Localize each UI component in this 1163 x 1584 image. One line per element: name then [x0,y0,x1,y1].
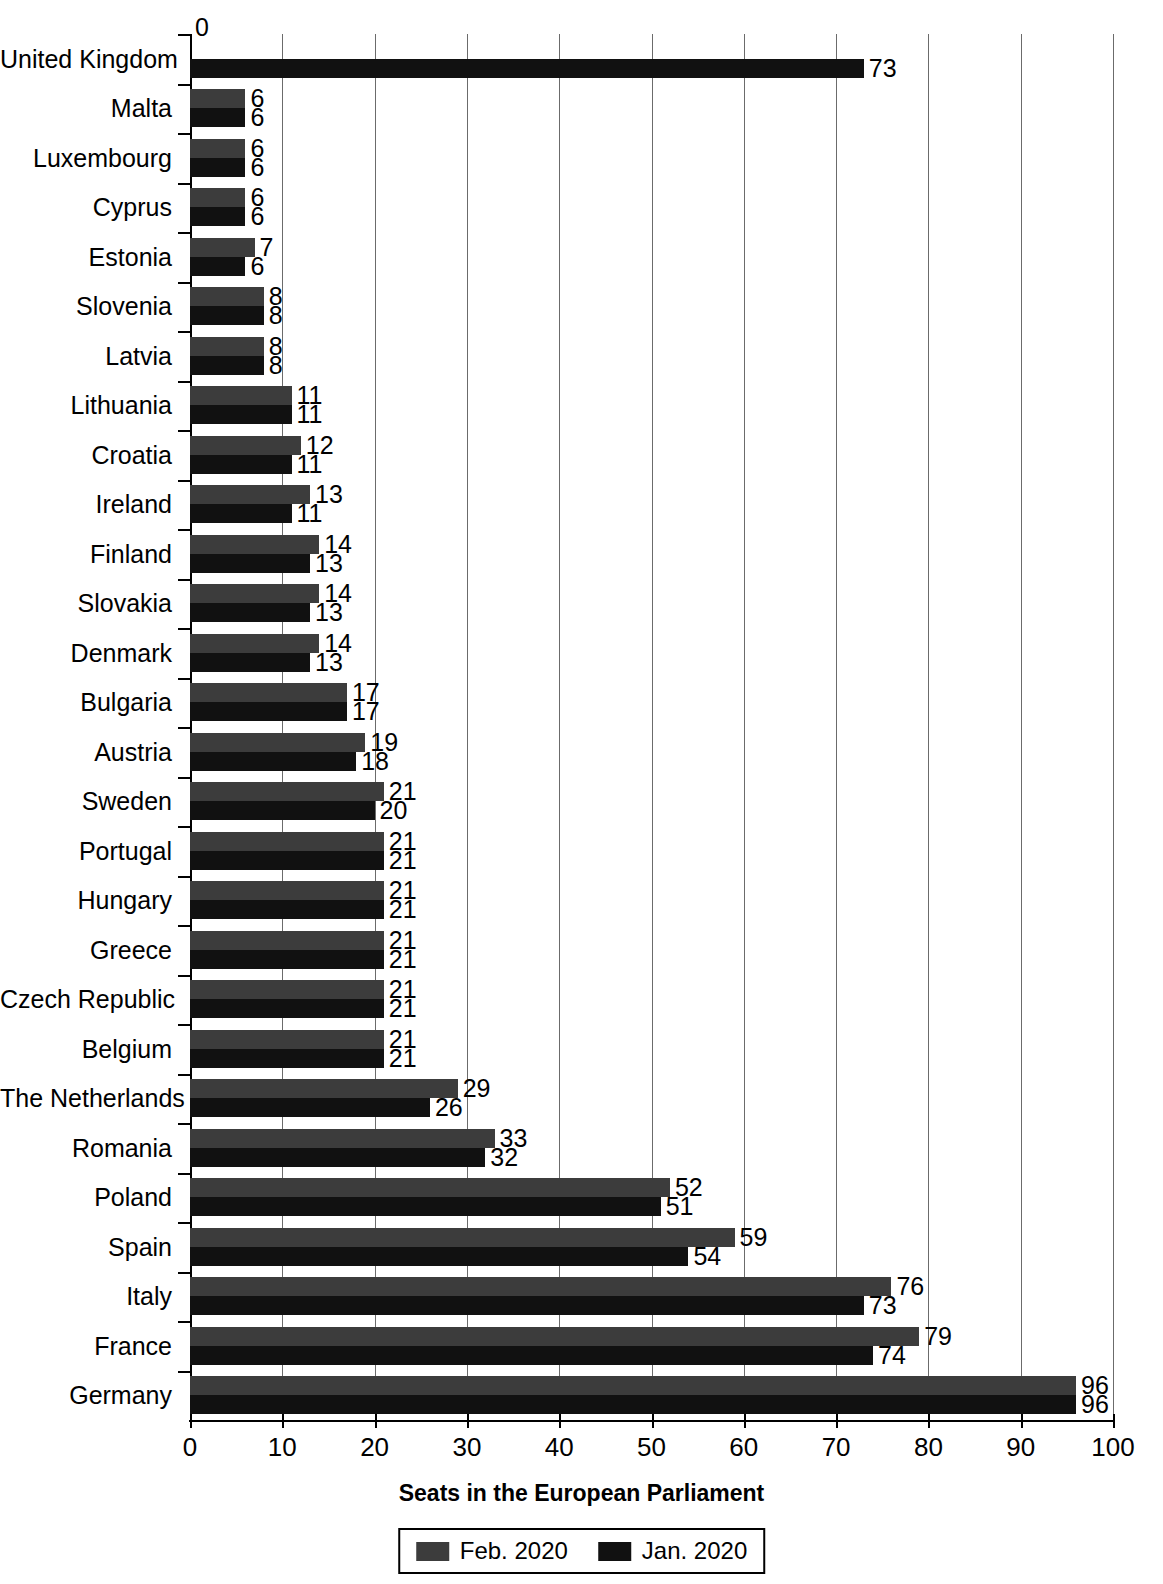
bar-jan [190,851,384,870]
chart-row: Belgium2121 [0,1024,1163,1074]
category-label: Poland [0,1185,172,1210]
category-label: Italy [0,1284,172,1309]
bar-value-jan: 73 [864,59,897,78]
chart-row: Ireland1311 [0,480,1163,530]
category-label: Bulgaria [0,690,172,715]
bar-feb [190,1178,670,1197]
category-label: Slovenia [0,294,172,319]
bar-feb [190,139,245,158]
category-label: Austria [0,740,172,765]
bar-value-jan: 51 [661,1197,694,1216]
bar-jan [190,207,245,226]
chart-row: Hungary2121 [0,876,1163,926]
bar-jan [190,108,245,127]
chart-legend: Feb. 2020 Jan. 2020 [398,1528,766,1574]
chart-row: Slovakia1413 [0,579,1163,629]
bar-jan [190,504,292,523]
bar-jan [190,752,356,771]
bar-jan [190,356,264,375]
bar-jan [190,1049,384,1068]
bar-feb [190,89,245,108]
bar-value-jan: 20 [375,801,408,820]
category-label: Croatia [0,443,172,468]
bar-jan [190,158,245,177]
x-tick-label-100: 100 [1073,1432,1153,1463]
bar-feb [190,238,255,257]
legend-label-feb: Feb. 2020 [460,1537,568,1565]
bar-value-jan: 13 [310,653,343,672]
bar-jan [190,455,292,474]
chart-row: Finland1413 [0,529,1163,579]
bar-value-jan: 73 [864,1296,897,1315]
legend-item-feb: Feb. 2020 [416,1537,568,1565]
x-tick-label-90: 90 [981,1432,1061,1463]
bar-jan [190,1148,485,1167]
chart-row: Austria1918 [0,727,1163,777]
category-label: Estonia [0,245,172,270]
bar-jan [190,1296,864,1315]
bar-feb [190,1277,891,1296]
bar-feb [190,832,384,851]
chart-row: Lithuania1111 [0,381,1163,431]
bar-value-jan: 96 [1076,1395,1109,1414]
chart-row: Portugal2121 [0,826,1163,876]
bar-jan [190,702,347,721]
bar-value-jan: 6 [245,158,264,177]
category-label: United Kingdom [0,47,172,72]
bar-value-jan: 6 [245,257,264,276]
chart-row: Croatia1211 [0,430,1163,480]
bar-value-jan: 21 [384,1049,417,1068]
category-label: Greece [0,938,172,963]
bar-value-jan: 8 [264,306,283,325]
bar-feb [190,386,292,405]
bar-jan [190,59,864,78]
legend-label-jan: Jan. 2020 [642,1537,747,1565]
x-tick-label-60: 60 [704,1432,784,1463]
x-tick-label-40: 40 [519,1432,599,1463]
chart-row: Denmark1413 [0,628,1163,678]
bar-feb [190,1129,495,1148]
bar-feb [190,634,319,653]
bar-feb [190,584,319,603]
bar-value-jan: 13 [310,554,343,573]
category-label: Romania [0,1136,172,1161]
bar-value-jan: 26 [430,1098,463,1117]
chart-row: Poland5251 [0,1173,1163,1223]
bar-jan [190,405,292,424]
bar-jan [190,306,264,325]
bar-jan [190,1197,661,1216]
category-label: Slovakia [0,591,172,616]
category-label: Hungary [0,888,172,913]
bar-jan [190,603,310,622]
category-label: France [0,1334,172,1359]
legend-swatch-jan-icon [598,1542,631,1561]
bar-value-jan: 11 [292,405,323,424]
bar-value-jan: 13 [310,603,343,622]
chart-row: Romania3332 [0,1123,1163,1173]
category-label: Finland [0,542,172,567]
bar-jan [190,1346,873,1365]
x-tick-label-80: 80 [888,1432,968,1463]
category-label: Malta [0,96,172,121]
category-label: The Netherlands [0,1086,172,1111]
bar-feb [190,188,245,207]
x-tick-label-0: 0 [150,1432,230,1463]
chart-row: Cyprus66 [0,183,1163,233]
bar-feb [190,1376,1076,1395]
x-axis-title: Seats in the European Parliament [0,1480,1163,1507]
category-label: Germany [0,1383,172,1408]
bar-feb [190,1079,458,1098]
bar-value-jan: 17 [347,702,380,721]
bar-feb [190,683,347,702]
x-tick-label-70: 70 [796,1432,876,1463]
chart-row: Germany9696 [0,1371,1163,1421]
bar-value-jan: 21 [384,851,417,870]
category-label: Denmark [0,641,172,666]
category-label: Luxembourg [0,146,172,171]
bar-value-jan: 11 [292,455,323,474]
chart-row: Latvia88 [0,331,1163,381]
chart-row: Italy7673 [0,1272,1163,1322]
x-tick-label-30: 30 [427,1432,507,1463]
bar-jan [190,1395,1076,1414]
bar-jan [190,999,384,1018]
